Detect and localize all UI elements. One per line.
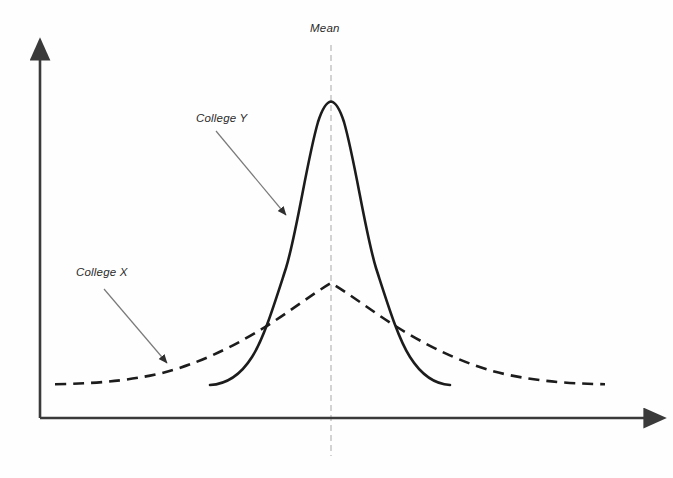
college-y-pointer-icon (216, 131, 286, 215)
mean-label: Mean (310, 22, 340, 34)
distribution-comparison-figure: Mean College Y College X (0, 0, 673, 478)
college-x-pointer-icon (104, 289, 167, 363)
chart-canvas (0, 0, 673, 478)
curve-college-x (55, 283, 605, 384)
curve-college-y (210, 102, 450, 386)
college-x-label: College X (76, 266, 128, 278)
college-y-label: College Y (196, 112, 247, 124)
